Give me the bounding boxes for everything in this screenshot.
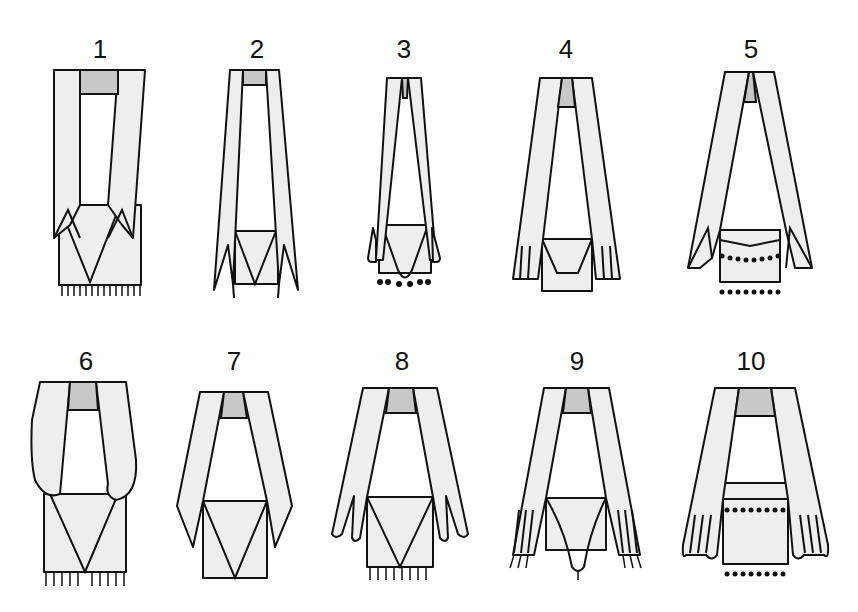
scarf-figure-5 xyxy=(688,72,812,295)
scarf-drawings xyxy=(0,0,858,612)
scarf-figure-6 xyxy=(31,382,136,586)
scarf-diagram: 1 2 3 4 5 6 7 8 9 10 xyxy=(0,0,858,612)
scarf-figure-10 xyxy=(683,388,828,577)
scarf-figure-4 xyxy=(513,78,620,291)
scarf-figure-3 xyxy=(368,78,440,287)
scarf-figure-8 xyxy=(332,388,468,580)
scarf-figure-1 xyxy=(54,70,145,296)
scarf-figure-2 xyxy=(214,70,298,298)
scarf-figure-9 xyxy=(510,388,641,580)
scarf-figure-7 xyxy=(177,392,292,578)
